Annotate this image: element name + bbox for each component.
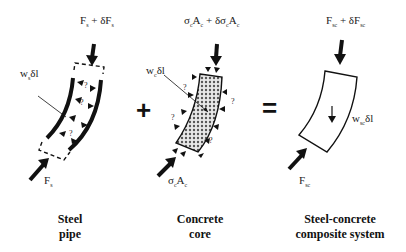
concrete-weight-label: wcδl bbox=[146, 64, 165, 78]
steel-pipe-caption: Steelpipe bbox=[40, 212, 100, 242]
plus-operator: + bbox=[136, 95, 151, 126]
concrete-top-force-label: σcAc + δσcAc bbox=[184, 14, 239, 28]
composite-bottom-force-label: Fsc bbox=[299, 174, 310, 188]
unknown-marker: ? bbox=[231, 97, 235, 106]
steel-pipe-diagram bbox=[30, 44, 106, 180]
composite-top-force-label: Fsc + δFsc bbox=[326, 14, 365, 28]
unknown-marker: ? bbox=[84, 81, 88, 90]
composite-diagram bbox=[289, 40, 357, 169]
steel-top-force-label: Fs + δFs bbox=[80, 14, 114, 28]
unknown-marker: ? bbox=[171, 113, 175, 122]
unknown-marker: ? bbox=[80, 98, 84, 107]
concrete-core-diagram bbox=[158, 44, 227, 176]
unknown-marker: ? bbox=[69, 129, 73, 138]
steel-weight-label: wsδl bbox=[20, 67, 39, 81]
concrete-core-caption: Concretecore bbox=[165, 212, 235, 242]
unknown-marker: ? bbox=[183, 83, 187, 92]
steel-bottom-force-label: Fs bbox=[44, 174, 52, 188]
arrow-down-icon bbox=[86, 55, 98, 66]
unknown-marker: ? bbox=[209, 136, 213, 145]
equals-operator: = bbox=[262, 93, 277, 124]
composite-caption: Steel-concretecomposite system bbox=[285, 212, 395, 242]
concrete-bottom-force-label: σcAc bbox=[168, 174, 187, 188]
composite-weight-label: wscδl bbox=[352, 112, 373, 126]
